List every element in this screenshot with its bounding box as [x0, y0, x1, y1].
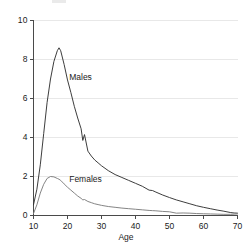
x-axis-tick-label: 10 — [24, 222, 44, 231]
gridlines — [34, 21, 238, 177]
y-axis-tick-label: 0 — [10, 211, 28, 220]
series-label-males: Males — [69, 73, 92, 82]
y-axis-tick-label: 4 — [10, 133, 28, 142]
y-axis-tick-label: 8 — [10, 55, 28, 64]
series-label-females: Females — [69, 175, 102, 184]
y-axis-tick-label: 6 — [10, 94, 28, 103]
axis-lines — [34, 21, 238, 216]
x-axis-tick-label: 20 — [58, 222, 78, 231]
chart-container: 0246810 10203040506070 MalesFemales Age — [0, 0, 252, 249]
x-axis-tick-label: 70 — [228, 222, 248, 231]
axis-ticks — [30, 21, 238, 220]
y-axis-tick-label: 10 — [10, 16, 28, 25]
data-series — [34, 48, 238, 215]
x-axis-tick-label: 40 — [126, 222, 146, 231]
x-axis-tick-label: 60 — [194, 222, 214, 231]
plot-area — [0, 0, 252, 249]
x-axis-title: Age — [0, 233, 252, 242]
x-axis-tick-label: 50 — [160, 222, 180, 231]
y-axis-tick-label: 2 — [10, 172, 28, 181]
x-axis-tick-label: 30 — [92, 222, 112, 231]
